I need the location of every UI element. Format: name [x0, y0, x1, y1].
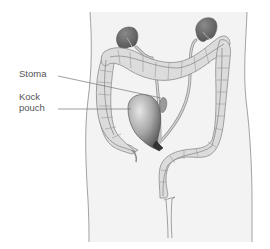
kock-pouch-label-line1: Kock	[19, 91, 45, 102]
anatomy-diagram	[0, 0, 270, 249]
kock-pouch-label: Kock pouch	[19, 91, 45, 113]
kock-pouch-label-line2: pouch	[19, 102, 45, 113]
stoma-label: Stoma	[19, 68, 46, 79]
